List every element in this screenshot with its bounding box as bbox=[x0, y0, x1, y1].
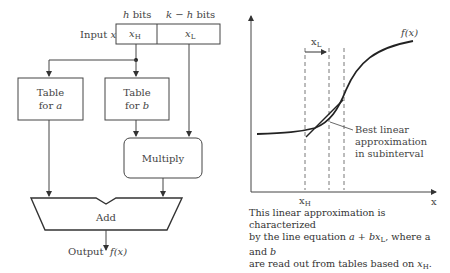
k-minus-h-bits-label: k − h bits bbox=[166, 10, 215, 20]
add-label: Add bbox=[45, 211, 167, 224]
table-a-label: Table for a bbox=[18, 86, 83, 112]
output-fx-label: f(x) bbox=[110, 247, 127, 257]
annotation-text: Best linear approximation in subinterval bbox=[355, 124, 427, 160]
field-xh: xH bbox=[129, 29, 141, 41]
figure-caption: This linear approximation is characteriz… bbox=[249, 207, 449, 273]
x-axis-label: x bbox=[431, 197, 437, 207]
multiply-label: Multiply bbox=[124, 152, 202, 165]
field-xl: xL bbox=[185, 29, 195, 41]
input-x-label: Input x bbox=[80, 30, 116, 40]
annotation-leader bbox=[330, 122, 353, 130]
curve-fx-label: f(x) bbox=[401, 28, 418, 38]
output-label: Output bbox=[68, 247, 104, 257]
table-b-label: Table for b bbox=[105, 86, 169, 112]
fx-curve bbox=[257, 41, 413, 134]
wire-to-table-a bbox=[49, 60, 136, 76]
linear-approx-line bbox=[306, 100, 343, 137]
h-bits-label: h bits bbox=[123, 10, 151, 20]
xl-span-label: xL bbox=[311, 37, 321, 49]
